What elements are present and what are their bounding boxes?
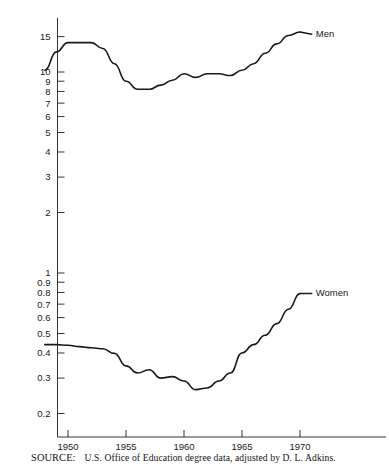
y-tick-label: 4 bbox=[45, 146, 50, 157]
y-tick-label: 3 bbox=[45, 171, 50, 182]
y-tick-label: 8 bbox=[45, 86, 50, 97]
x-tick-label: 1965 bbox=[231, 441, 252, 452]
y-tick-label: 0.4 bbox=[37, 347, 50, 358]
chart-background bbox=[0, 0, 389, 469]
y-tick-label: 7 bbox=[45, 98, 50, 109]
y-tick-label: 0.5 bbox=[37, 328, 50, 339]
series-label-women: Women bbox=[316, 287, 349, 298]
y-tick-label: 2 bbox=[45, 207, 50, 218]
series-label-men: Men bbox=[316, 28, 334, 39]
y-tick-label: 0.3 bbox=[37, 372, 50, 383]
x-tick-label: 1960 bbox=[173, 441, 194, 452]
y-tick-label: 10 bbox=[40, 66, 51, 77]
y-tick-label: 5 bbox=[45, 127, 50, 138]
y-tick-label: 0.7 bbox=[37, 299, 50, 310]
y-tick-label: 0.8 bbox=[37, 287, 50, 298]
source-text: U.S. Office of Education degree data, ad… bbox=[85, 452, 336, 463]
source-note: SOURCE:U.S. Office of Education degree d… bbox=[31, 452, 336, 463]
x-tick-label: 1950 bbox=[57, 441, 78, 452]
source-label: SOURCE: bbox=[31, 452, 76, 463]
x-tick-label: 1955 bbox=[115, 441, 136, 452]
y-tick-label: 0.2 bbox=[37, 408, 50, 419]
x-tick-label: 1970 bbox=[289, 441, 310, 452]
y-tick-label: 0.6 bbox=[37, 312, 50, 323]
y-tick-label: 15 bbox=[40, 31, 51, 42]
chart-figure: 0.20.30.40.50.60.70.80.91234567891015 19… bbox=[0, 0, 389, 469]
y-tick-label: 1 bbox=[45, 267, 50, 278]
y-tick-label: 6 bbox=[45, 111, 50, 122]
